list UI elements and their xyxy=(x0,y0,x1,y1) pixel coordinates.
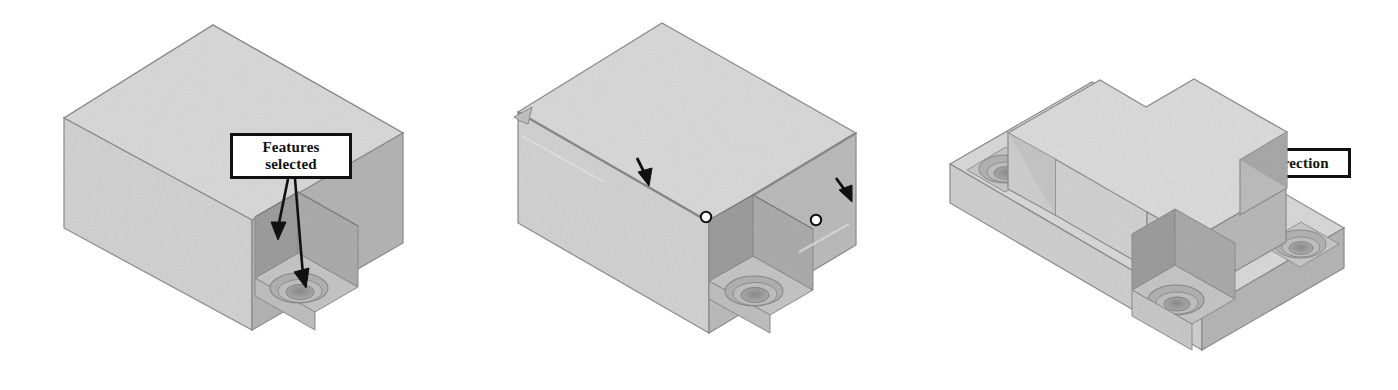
front-drill-bore xyxy=(1164,297,1190,311)
figure-3-drawing xyxy=(932,0,1398,390)
vertex-marker-1[interactable] xyxy=(701,212,711,222)
drill-bore xyxy=(286,285,314,300)
figure-1-drawing xyxy=(0,0,466,390)
figure-3-block-with-patterned-counterbores xyxy=(932,0,1398,390)
features-selected-callout-label: Features selected xyxy=(237,139,345,173)
vertex-marker-2[interactable] xyxy=(811,215,821,225)
figure-2-solid xyxy=(514,23,856,333)
figure-3-solid xyxy=(950,79,1344,350)
drill-bore xyxy=(741,288,769,303)
right-drill-bore xyxy=(1289,242,1313,255)
figure-2-drawing xyxy=(466,0,932,390)
features-selected-callout[interactable]: Features selected xyxy=(230,133,352,179)
figure-2-block-with-direction-callouts: Direction 1 Direction xyxy=(466,0,932,390)
figure-1-block-with-single-counterbore-pocket: Features selected xyxy=(0,0,466,390)
figure-strip: Features selected xyxy=(0,0,1398,390)
